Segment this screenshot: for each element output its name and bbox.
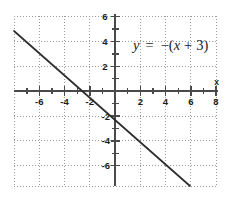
x-axis-label: x	[214, 77, 219, 87]
x-tick-label-6: 6	[188, 96, 193, 107]
linear-function-graph-figure: -6 -4 -2 2 4 6 8 6 4 2 -2 -4 -6 x y=−(x+…	[0, 0, 234, 199]
equation-equals: =	[145, 37, 153, 53]
x-tick-label-4: 4	[163, 96, 169, 107]
y-tick-label-4: 4	[102, 36, 108, 47]
y-tick-label--6: -6	[102, 160, 110, 171]
y-tick-label--4: -4	[102, 135, 111, 146]
equation-lhs: y	[131, 37, 140, 53]
equation-constant: 3)	[196, 37, 208, 54]
x-tick-label--4: -4	[60, 96, 69, 107]
x-tick-label-8: 8	[213, 96, 218, 107]
equation-plus: +	[184, 37, 192, 53]
graph-screenshot: -6 -4 -2 2 4 6 8 6 4 2 -2 -4 -6 x y=−(x+…	[0, 0, 234, 199]
x-tick-label--6: -6	[35, 96, 43, 107]
x-tick-label-2: 2	[138, 96, 143, 107]
equation-variable: x	[173, 37, 181, 53]
equation-rhs-open: −(	[161, 37, 174, 54]
y-tick-label-6: 6	[102, 11, 107, 22]
y-tick-label-2: 2	[102, 61, 107, 72]
graph-canvas: -6 -4 -2 2 4 6 8 6 4 2 -2 -4 -6 x y=−(x+…	[0, 0, 234, 199]
